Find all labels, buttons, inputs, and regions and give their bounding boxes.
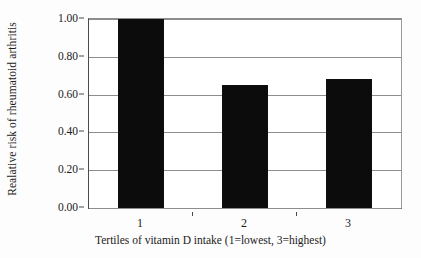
y-axis-tick-mark (79, 55, 84, 56)
y-axis-title: Realative risk of rheumatoid arthritis (0, 0, 24, 218)
y-axis-tick-mark (79, 207, 84, 208)
y-axis-tick-label: 0.60 (24, 88, 78, 100)
plot-area (88, 18, 402, 209)
y-axis-tick-mark (79, 93, 84, 94)
y-axis-tick-mark (79, 169, 84, 170)
bar (222, 85, 268, 208)
y-axis-tick-mark (79, 18, 84, 19)
x-axis-tick-labels: 123 (88, 212, 402, 234)
y-axis-tick-labels: 0.000.200.400.600.801.00 (24, 0, 84, 218)
gridline (89, 208, 401, 209)
x-axis-tick-label: 1 (120, 216, 160, 231)
y-axis-tick-label: 0.00 (24, 201, 78, 213)
bar (118, 19, 164, 208)
x-axis-tick-mark (296, 212, 297, 216)
y-axis-tick-label: 0.80 (24, 50, 78, 62)
bar-chart-figure: Realative risk of rheumatoid arthritis 0… (0, 0, 421, 258)
y-axis-tick-mark (79, 131, 84, 132)
x-axis-tick-label: 3 (328, 216, 368, 231)
x-axis-tick-label: 2 (224, 216, 264, 231)
y-axis-tick-label: 0.40 (24, 125, 78, 137)
y-axis-tick-label: 0.20 (24, 163, 78, 175)
y-axis-tick-label: 1.00 (24, 12, 78, 24)
x-axis-title: Tertiles of vitamin D intake (1=lowest, … (0, 234, 421, 246)
y-axis-title-text: Realative risk of rheumatoid arthritis (6, 22, 18, 196)
bar (326, 79, 372, 208)
x-axis-tick-mark (192, 212, 193, 216)
